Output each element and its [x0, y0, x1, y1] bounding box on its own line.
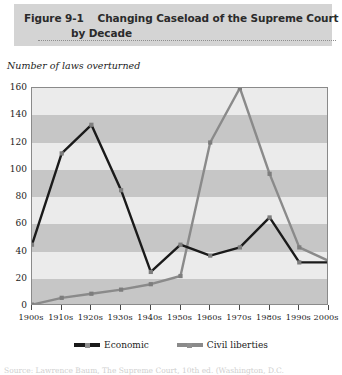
data-point [178, 243, 182, 247]
x-tick-mark-1920s [90, 305, 91, 310]
x-tick-label-1950s: 1950s [167, 312, 192, 322]
figure-title-banner: Figure 9-1 Changing Caseload of the Supr… [14, 4, 332, 46]
x-tick-label-1930s: 1930s [108, 312, 133, 322]
legend-swatch-civil-liberties [177, 343, 203, 347]
figure-title-text-cont: by Decade [71, 27, 132, 39]
y-axis-labels: 160 140 120 100 80 60 40 20 0 [0, 87, 27, 305]
data-point [327, 260, 328, 264]
x-tick-mark-1970s [239, 305, 240, 310]
y-tick-label-100: 100 [10, 164, 27, 174]
x-tick-label-1960s: 1960s [197, 312, 222, 322]
data-point [268, 215, 272, 219]
source-note: Source: Lawrence Baum, The Supreme Court… [4, 366, 338, 375]
x-tick-label-1920s: 1920s [78, 312, 103, 322]
x-tick-mark-1990s [298, 305, 299, 310]
figure-title-text: Changing Caseload of the Supreme Court [98, 12, 339, 24]
data-point [32, 243, 34, 247]
x-tick-label-2000s: 2000s [313, 312, 338, 322]
data-point [208, 253, 212, 257]
legend-item-civil-liberties[interactable]: Civil liberties [177, 340, 268, 350]
plot-area [31, 87, 328, 305]
x-tick-mark-1900s [31, 305, 32, 310]
x-tick-label-1940s: 1940s [137, 312, 162, 322]
figure-container: Figure 9-1 Changing Caseload of the Supr… [0, 0, 342, 375]
title-dotted-divider [38, 40, 336, 41]
y-axis-title: Number of laws overturned [7, 60, 140, 71]
x-tick-label-1910s: 1910s [48, 312, 73, 322]
x-tick-mark-1910s [61, 305, 62, 310]
data-point [149, 282, 153, 286]
x-tick-mark-1980s [269, 305, 270, 310]
y-tick-label-120: 120 [10, 137, 27, 147]
legend-label-civil-liberties: Civil liberties [207, 340, 268, 350]
x-tick-label-1980s: 1980s [256, 312, 281, 322]
y-tick-label-0: 0 [21, 300, 27, 310]
data-point [89, 123, 93, 127]
y-tick-label-80: 80 [16, 191, 27, 201]
data-point [178, 274, 182, 278]
x-tick-mark-2000s [328, 305, 329, 310]
legend-marker-civil-liberties [187, 343, 192, 348]
data-point [119, 188, 123, 192]
data-point [60, 151, 64, 155]
figure-title-line-2: by Decade [71, 25, 324, 40]
legend-label-economic: Economic [104, 340, 149, 350]
x-tick-mark-1940s [150, 305, 151, 310]
x-tick-mark-1960s [209, 305, 210, 310]
chart-lines [32, 88, 328, 305]
y-tick-label-140: 140 [10, 109, 27, 119]
data-point [119, 288, 123, 292]
y-tick-label-20: 20 [16, 273, 27, 283]
data-point [149, 270, 153, 274]
data-point [60, 296, 64, 300]
x-tick-mark-1930s [120, 305, 121, 310]
y-tick-label-40: 40 [16, 246, 27, 256]
data-point [297, 245, 301, 249]
data-point [208, 140, 212, 144]
data-point [327, 259, 328, 263]
data-point [32, 303, 34, 305]
y-tick-label-60: 60 [16, 218, 27, 228]
series-line-civil-liberties [32, 88, 328, 305]
x-tick-label-1990s: 1990s [286, 312, 311, 322]
legend-marker-economic [85, 343, 90, 348]
data-point [268, 172, 272, 176]
x-tick-label-1900s: 1900s [18, 312, 43, 322]
figure-number: Figure 9-1 [24, 12, 84, 24]
data-point [238, 88, 242, 90]
figure-title-line-1: Figure 9-1 Changing Caseload of the Supr… [24, 10, 324, 25]
legend-swatch-economic [74, 343, 100, 347]
x-tick-mark-1950s [180, 305, 181, 310]
data-point [297, 260, 301, 264]
legend-item-economic[interactable]: Economic [74, 340, 149, 350]
y-tick-label-160: 160 [10, 82, 27, 92]
data-point [238, 245, 242, 249]
data-point [89, 292, 93, 296]
figure-title-block: Figure 9-1 Changing Caseload of the Supr… [24, 10, 324, 40]
series-line-economic [32, 125, 328, 272]
chart-legend: Economic Civil liberties [0, 340, 342, 350]
x-tick-label-1970s: 1970s [226, 312, 251, 322]
plot-wrapper [31, 87, 328, 305]
